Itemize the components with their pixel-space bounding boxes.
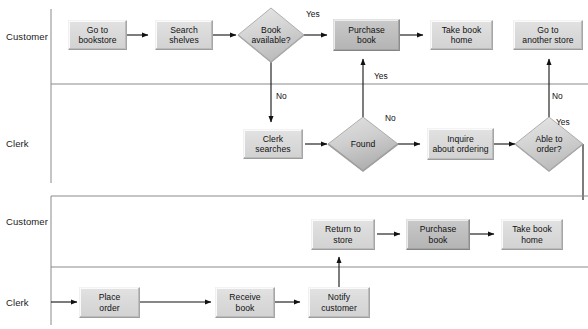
node-go-to-another-store-label: Go toanother store [519, 25, 576, 46]
node-take-book-home-bottom[interactable]: Take bookhome [501, 219, 563, 250]
node-able-to-order-label: Able toorder? [532, 134, 565, 155]
lane-label-clerk-bottom: Clerk [6, 297, 29, 308]
node-notify-customer[interactable]: Notifycustomer [308, 287, 370, 318]
edge-label-able-to-order-yes: Yes [556, 117, 570, 127]
node-go-to-another-store[interactable]: Go toanother store [513, 20, 583, 50]
node-purchase-book-bottom-label: Purchasebook [417, 224, 460, 245]
node-notify-customer-label: Notifycustomer [318, 292, 360, 313]
node-found-label: Found [348, 139, 379, 149]
node-search-shelves-label: Searchshelves [166, 25, 202, 46]
node-purchase-book-top-label: Purchasebook [345, 25, 388, 46]
lane-label-clerk-top: Clerk [6, 138, 29, 149]
node-take-book-home-bottom-label: Take bookhome [509, 224, 555, 245]
node-return-to-store-label: Return tostore [322, 224, 364, 245]
node-found[interactable]: Found [335, 130, 391, 158]
lane-label-customer-bottom: Customer [6, 216, 48, 227]
node-go-to-bookstore-label: Go tobookstore [75, 25, 119, 46]
node-book-available[interactable]: Bookavailable? [240, 20, 302, 50]
node-place-order-label: Placeorder [96, 292, 124, 313]
node-purchase-book-bottom[interactable]: Purchasebook [406, 219, 470, 250]
edge-label-found-yes: Yes [374, 71, 388, 81]
lane-label-customer-top: Customer [6, 31, 48, 42]
node-clerk-searches[interactable]: Clerksearches [243, 129, 303, 159]
node-purchase-book-top[interactable]: Purchasebook [333, 19, 400, 51]
edge-label-book-available-no: No [276, 91, 287, 101]
node-clerk-searches-label: Clerksearches [252, 134, 293, 155]
node-search-shelves[interactable]: Searchshelves [155, 20, 213, 50]
edge-label-found-no: No [385, 113, 396, 123]
node-receive-book-label: Receivebook [226, 292, 263, 313]
edge-label-able-to-order-no: No [552, 91, 563, 101]
node-go-to-bookstore[interactable]: Go tobookstore [68, 20, 127, 50]
node-place-order[interactable]: Placeorder [79, 287, 140, 318]
edge-label-book-available-yes: Yes [306, 9, 320, 19]
node-able-to-order[interactable]: Able toorder? [520, 129, 578, 159]
flowchart-canvas: Customer Clerk Go tobookstore Searchshel… [0, 0, 588, 329]
node-inquire-about-ordering-label: Inquireabout ordering [429, 134, 491, 155]
node-inquire-about-ordering[interactable]: Inquireabout ordering [427, 128, 494, 160]
top-connectors [127, 35, 583, 200]
node-take-book-home-top-label: Take bookhome [439, 25, 485, 46]
node-return-to-store[interactable]: Return tostore [311, 219, 375, 250]
node-take-book-home-top[interactable]: Take bookhome [430, 20, 493, 50]
node-receive-book[interactable]: Receivebook [215, 287, 275, 318]
node-book-available-label: Bookavailable? [248, 25, 293, 46]
